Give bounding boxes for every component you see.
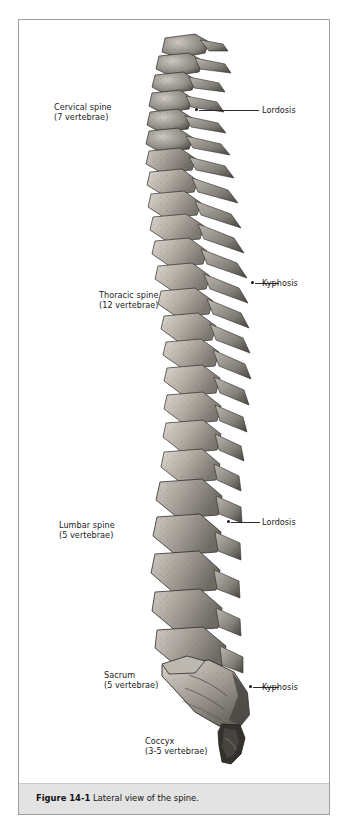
- label-cervical-line2: (7 vertebrae): [54, 112, 112, 122]
- label-cervical-line1: Cervical spine: [54, 102, 112, 112]
- label-coccyx: Coccyx (3-5 vertebrae): [145, 736, 208, 757]
- cervical-vertebrae-group: [146, 34, 234, 178]
- label-thoracic-line1: Thoracic spine: [99, 290, 159, 300]
- label-thoracic-spine: Thoracic spine (12 vertebrae): [99, 290, 159, 311]
- coccyx-group: [218, 724, 245, 764]
- label-thoracic-kyphosis: Kyphosis: [262, 278, 298, 288]
- label-sacrum-line1: Sacrum: [104, 670, 158, 680]
- figure-caption-bar: Figure 14-1 Lateral view of the spine.: [19, 783, 329, 814]
- lumbar-vertebrae-group: [151, 479, 243, 673]
- spine-illustration: Cervical spine (7 vertebrae) Thoracic sp…: [19, 20, 329, 783]
- label-lumbar-line1: Lumbar spine: [59, 520, 115, 530]
- label-lumbar-line2: (5 vertebrae): [59, 530, 115, 540]
- label-thoracic-line2: (12 vertebrae): [99, 300, 159, 310]
- leader-line-cervical-lordosis: [199, 110, 259, 111]
- label-lumbar-spine: Lumbar spine (5 vertebrae): [59, 520, 115, 541]
- thoracic-vertebrae-group: [147, 169, 251, 491]
- figure-frame: Cervical spine (7 vertebrae) Thoracic sp…: [18, 19, 330, 815]
- figure-number: Figure 14-1: [36, 793, 90, 803]
- label-lumbar-lordosis: Lordosis: [262, 517, 296, 527]
- label-cervical-lordosis: Lordosis: [262, 105, 296, 115]
- figure-caption-text: Lateral view of the spine.: [93, 793, 199, 803]
- label-sacrum-line2: (5 vertebrae): [104, 680, 158, 690]
- label-sacral-kyphosis: Kyphosis: [262, 682, 298, 692]
- leader-line-lumbar-lordosis: [231, 522, 260, 523]
- label-cervical-spine: Cervical spine (7 vertebrae): [54, 102, 112, 123]
- spine-graphic: [19, 20, 329, 783]
- figure-caption: Figure 14-1 Lateral view of the spine.: [36, 793, 199, 803]
- label-coccyx-line1: Coccyx: [145, 736, 208, 746]
- label-sacrum: Sacrum (5 vertebrae): [104, 670, 158, 691]
- label-coccyx-line2: (3-5 vertebrae): [145, 746, 208, 756]
